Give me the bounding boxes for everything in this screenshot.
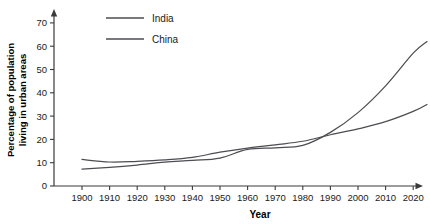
x-axis-tick-label: 1930 xyxy=(154,192,175,203)
series-line-china xyxy=(82,42,427,170)
y-axis-tick-label: 50 xyxy=(36,64,47,75)
series-line-india xyxy=(82,104,427,162)
chart-canvas: 0102030405060701900191019201930194019501… xyxy=(0,0,430,224)
x-axis-tick-label: 1910 xyxy=(99,192,120,203)
y-axis-tick-label: 70 xyxy=(36,17,47,28)
y-axis-tick-label: 10 xyxy=(36,157,47,168)
x-axis-tick-label: 1950 xyxy=(209,192,230,203)
x-axis-title: Year xyxy=(249,209,270,220)
y-axis-tick-label: 40 xyxy=(36,87,47,98)
x-axis-tick-label: 1920 xyxy=(127,192,148,203)
x-axis-tick-label: 2020 xyxy=(403,192,424,203)
x-axis-tick-label: 1990 xyxy=(320,192,341,203)
x-axis-arrow-icon xyxy=(416,183,424,189)
y-axis-title-line-1: Percentage of population xyxy=(5,43,16,157)
y-axis-tick-label: 0 xyxy=(42,180,47,191)
y-axis-tick-label: 30 xyxy=(36,111,47,122)
x-axis-tick-label: 1970 xyxy=(265,192,286,203)
x-axis-tick-label: 1940 xyxy=(182,192,203,203)
x-axis-tick-label: 2000 xyxy=(347,192,368,203)
y-axis-tick-label: 20 xyxy=(36,134,47,145)
x-axis-tick-label: 2010 xyxy=(375,192,396,203)
urbanization-line-chart: 0102030405060701900191019201930194019501… xyxy=(0,0,430,224)
x-axis-tick-label: 1960 xyxy=(237,192,258,203)
y-axis-title-line-2: living in urban areas xyxy=(17,54,28,146)
y-axis-arrow-icon xyxy=(51,9,57,17)
legend-label-india: India xyxy=(152,13,174,24)
y-axis-title: Percentage of populationliving in urban … xyxy=(5,43,28,157)
x-axis-tick-label: 1980 xyxy=(292,192,313,203)
x-axis-tick-label: 1900 xyxy=(71,192,92,203)
y-axis-tick-label: 60 xyxy=(36,41,47,52)
legend-label-china: China xyxy=(152,34,179,45)
